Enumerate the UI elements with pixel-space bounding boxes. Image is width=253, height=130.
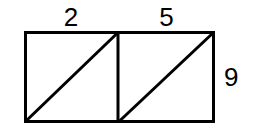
dimension-label-right-side: 9 [224,64,238,90]
dimension-label-top-right: 5 [118,4,215,30]
geometry-figure: 2 5 9 [0,0,253,130]
dimension-label-top-left: 2 [24,4,118,30]
